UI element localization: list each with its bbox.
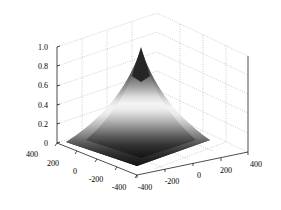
z-axis-tick-labels: 1.0 0.8 0.6 0.4 0.2 0 (38, 43, 48, 148)
y-tick-label: 0 (73, 167, 77, 176)
z-tick-label: 0.6 (38, 81, 48, 90)
x-axis-tick-labels: -400 -200 0 200 400 (138, 160, 262, 192)
x-tick-label: -400 (138, 183, 153, 192)
x-tick-label: -200 (165, 177, 180, 186)
z-tick-label: 0 (44, 139, 48, 148)
x-tick-label: 400 (250, 160, 262, 169)
z-tick-label: 0.2 (38, 120, 48, 129)
y-tick-label: -200 (89, 175, 104, 184)
z-tick-label: 0.8 (38, 62, 48, 71)
surface-plot-figure: 1.0 0.8 0.6 0.4 0.2 0 400 200 0 -200 -40… (0, 0, 281, 210)
y-tick-label: 200 (47, 159, 59, 168)
surface-apex (132, 47, 150, 82)
surface-mesh (66, 47, 210, 166)
x-tick-label: 0 (197, 171, 201, 180)
z-tick-label: 1.0 (38, 43, 48, 52)
surface-plot-canvas: 1.0 0.8 0.6 0.4 0.2 0 400 200 0 -200 -40… (0, 0, 281, 210)
z-tick-label: 0.4 (38, 101, 48, 110)
x-tick-label: 200 (220, 166, 232, 175)
y-tick-label: 400 (26, 150, 38, 159)
y-tick-label: -400 (112, 183, 127, 192)
